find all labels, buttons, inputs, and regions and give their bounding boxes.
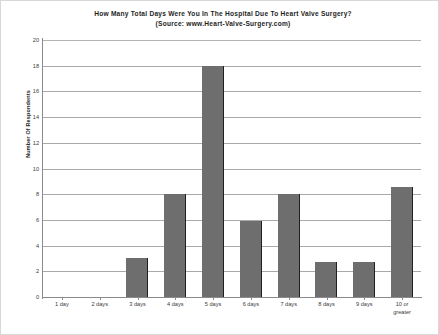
x-axis-tick-label-line: 2 days	[81, 301, 119, 309]
bar[interactable]	[353, 262, 375, 297]
x-axis-tick-label-line: 5 days	[194, 301, 232, 309]
x-axis-tick-label: 3 days	[119, 301, 157, 309]
bar-slot	[156, 40, 194, 297]
y-axis-tick-labels: 02468101214161820	[13, 40, 39, 297]
bar[interactable]	[315, 262, 337, 297]
y-axis-tick-label: 10	[17, 166, 39, 172]
bar[interactable]	[240, 221, 262, 297]
x-axis-tick-label: 5 days	[194, 301, 232, 309]
bar[interactable]	[278, 194, 300, 297]
x-axis-tick-mark	[289, 297, 290, 300]
x-axis-tick-label: 4 days	[156, 301, 194, 309]
y-axis-tick-label: 4	[17, 243, 39, 249]
x-axis-tick-label: 10 orgreater	[383, 301, 421, 316]
bars-layer	[43, 40, 421, 297]
y-axis-tick-label: 14	[17, 114, 39, 120]
x-axis-tick-label-line: 6 days	[232, 301, 270, 309]
bar-slot	[43, 40, 81, 297]
x-axis-tick-label: 6 days	[232, 301, 270, 309]
bar-slot	[345, 40, 383, 297]
bar-slot	[119, 40, 157, 297]
x-axis-tick-labels: 1 day2 days3 days4 days5 days6 days7 day…	[43, 301, 421, 331]
y-axis-tick-label: 8	[17, 191, 39, 197]
x-axis-tick-mark	[327, 297, 328, 300]
y-axis-tick-label: 18	[17, 63, 39, 69]
x-axis-tick-mark	[364, 297, 365, 300]
y-axis-tick-label: 20	[17, 37, 39, 43]
x-axis-tick-label: 8 days	[308, 301, 346, 309]
chart-title-main: How Many Total Days Were You In The Hosp…	[94, 10, 352, 17]
bar[interactable]	[391, 187, 413, 298]
x-axis-tick-label-line: 1 day	[43, 301, 81, 309]
bar-slot	[232, 40, 270, 297]
x-axis-tick-label-line: 10 or	[383, 301, 421, 309]
y-axis-tick-label: 2	[17, 268, 39, 274]
y-axis-tick-label: 0	[17, 294, 39, 300]
x-axis-tick-mark	[251, 297, 252, 300]
bar-slot	[308, 40, 346, 297]
x-axis-tick-mark	[402, 297, 403, 300]
y-axis-tick-label: 6	[17, 217, 39, 223]
chart-title: How Many Total Days Were You In The Hosp…	[43, 9, 403, 28]
x-axis-tick-mark	[62, 297, 63, 300]
x-axis-tick-label: 7 days	[270, 301, 308, 309]
x-axis-tick-label: 9 days	[345, 301, 383, 309]
x-axis-tick-mark	[175, 297, 176, 300]
bar[interactable]	[126, 258, 148, 297]
x-axis-tick-mark	[100, 297, 101, 300]
x-axis-tick-label-line: 8 days	[308, 301, 346, 309]
x-axis-tick-label-line: 9 days	[345, 301, 383, 309]
x-axis-tick-label-line: 7 days	[270, 301, 308, 309]
x-axis-tick-label-line: 4 days	[156, 301, 194, 309]
bar-slot	[383, 40, 421, 297]
bar-slot	[194, 40, 232, 297]
y-axis-tick-label: 12	[17, 140, 39, 146]
chart-subtitle: (Source: www.Heart-Valve-Surgery.com)	[43, 19, 403, 29]
bar[interactable]	[202, 66, 224, 297]
bar-slot	[81, 40, 119, 297]
x-axis-tick-label-line: greater	[383, 309, 421, 317]
x-axis-tick-label: 2 days	[81, 301, 119, 309]
x-axis-tick-label: 1 day	[43, 301, 81, 309]
chart-frame: How Many Total Days Were You In The Hosp…	[0, 0, 439, 335]
y-axis-tick-label: 16	[17, 88, 39, 94]
bar-slot	[270, 40, 308, 297]
x-axis-tick-label-line: 3 days	[119, 301, 157, 309]
x-axis-tick-mark	[138, 297, 139, 300]
bar[interactable]	[164, 194, 186, 297]
x-axis-tick-mark	[213, 297, 214, 300]
